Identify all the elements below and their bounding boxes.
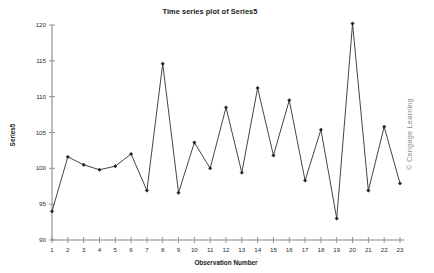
x-tick-label: 10 bbox=[191, 246, 198, 253]
x-tick-label: 1 bbox=[50, 246, 54, 253]
y-tick-label: 120 bbox=[36, 21, 47, 28]
y-tick-label: 95 bbox=[39, 200, 46, 207]
data-point-marker bbox=[288, 99, 291, 102]
data-point-marker bbox=[98, 168, 101, 171]
x-tick-label: 16 bbox=[286, 246, 293, 253]
data-point-marker bbox=[224, 106, 227, 109]
data-point-marker bbox=[367, 189, 370, 192]
x-tick-label: 22 bbox=[381, 246, 388, 253]
y-tick-label: 115 bbox=[36, 57, 46, 64]
x-tick-label: 8 bbox=[161, 246, 165, 253]
data-point-marker bbox=[335, 217, 338, 220]
data-point-marker bbox=[240, 171, 243, 174]
x-tick-label: 18 bbox=[317, 246, 324, 253]
x-tick-label: 15 bbox=[270, 246, 277, 253]
data-point-marker bbox=[319, 128, 322, 131]
x-tick-label: 4 bbox=[98, 246, 102, 253]
y-tick-label: 105 bbox=[36, 129, 47, 136]
data-point-marker bbox=[82, 163, 85, 166]
data-point-marker bbox=[303, 179, 306, 182]
x-tick-label: 21 bbox=[365, 246, 372, 253]
x-tick-label: 5 bbox=[114, 246, 118, 253]
data-point-marker bbox=[50, 210, 53, 213]
data-point-marker bbox=[177, 191, 180, 194]
x-tick-label: 2 bbox=[66, 246, 70, 253]
x-tick-label: 17 bbox=[302, 246, 309, 253]
x-tick-label: 3 bbox=[82, 246, 86, 253]
data-point-marker bbox=[351, 22, 354, 25]
x-tick-label: 9 bbox=[177, 246, 181, 253]
data-point-marker bbox=[382, 125, 385, 128]
data-point-marker bbox=[66, 155, 69, 158]
x-tick-label: 7 bbox=[145, 246, 149, 253]
data-point-marker bbox=[161, 62, 164, 65]
series-markers bbox=[50, 22, 401, 220]
x-tick-label: 14 bbox=[254, 246, 261, 253]
chart-figure: Time series plot of Series5 Series5 Obse… bbox=[0, 0, 434, 273]
x-tick-label: 12 bbox=[223, 246, 230, 253]
data-point-marker bbox=[145, 189, 148, 192]
x-tick-label: 13 bbox=[238, 246, 245, 253]
series-line-series5 bbox=[52, 24, 400, 219]
x-tick-label: 23 bbox=[397, 246, 404, 253]
data-point-marker bbox=[398, 182, 401, 185]
data-point-marker bbox=[256, 86, 259, 89]
x-tick-label: 6 bbox=[129, 246, 133, 253]
x-tick-label: 20 bbox=[349, 246, 356, 253]
y-tick-label: 110 bbox=[36, 93, 46, 100]
x-tick-label: 19 bbox=[333, 246, 340, 253]
x-tick-label: 11 bbox=[207, 246, 214, 253]
data-point-marker bbox=[272, 154, 275, 157]
y-tick-label: 90 bbox=[39, 236, 46, 243]
plot-area: 9095100105110115120 12345678910111213141… bbox=[0, 0, 434, 273]
y-tick-label: 100 bbox=[36, 164, 47, 171]
x-axis-ticks: 1234567891011121314151617181920212223 bbox=[50, 237, 404, 253]
